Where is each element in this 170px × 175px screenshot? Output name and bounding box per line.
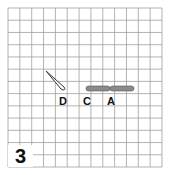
bar-a-shape <box>110 86 134 91</box>
bar-c-shape <box>86 86 110 91</box>
label-c: C <box>83 96 91 107</box>
label-a: A <box>107 96 115 107</box>
diagram-figure: D C A 3 <box>0 0 170 175</box>
label-d: D <box>59 96 67 107</box>
panel-number: 3 <box>8 145 33 167</box>
